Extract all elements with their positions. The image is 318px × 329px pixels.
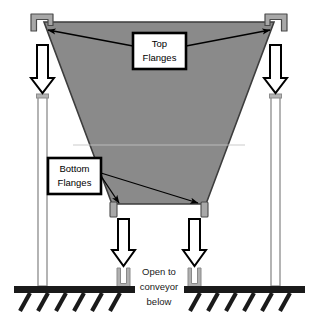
annotation-open-line2: conveyor (140, 281, 179, 292)
bottom-flange-left-tab (110, 202, 117, 217)
callout-top-flanges-line1: Top (152, 38, 167, 49)
annotation-open-line3: below (147, 296, 172, 307)
annotation-open-to-conveyor: Open to conveyor below (140, 266, 179, 307)
callout-bottom-flanges-line2: Flanges (58, 177, 92, 188)
support-leg-left-shaft (38, 96, 47, 286)
load-arrow-outer-left-shape (31, 45, 54, 93)
load-arrow-outer-right-shape (264, 45, 287, 93)
hopper-flange-diagram: Top Flanges Bottom Flanges Open to conve… (0, 0, 318, 329)
u-channel-left-shape (117, 268, 130, 288)
ground-hatch-right (184, 286, 305, 311)
callout-top-flanges-line2: Flanges (143, 52, 177, 63)
callout-bottom-flanges[interactable]: Bottom Flanges (48, 158, 101, 194)
u-channel-right (188, 268, 201, 288)
load-arrow-inner-left (112, 219, 135, 266)
load-arrow-outer-left (31, 45, 54, 93)
ground-line-left (14, 286, 135, 293)
load-arrow-inner-right (183, 219, 206, 266)
bottom-flange-right-shape (201, 202, 208, 217)
load-arrow-inner-left-shape (112, 219, 135, 266)
ground-line-right (184, 286, 305, 293)
ground-hatch-marks-left (20, 293, 120, 311)
callout-bottom-flanges-line1: Bottom (59, 163, 89, 174)
support-leg-right-shaft (271, 96, 280, 286)
diagram-canvas: Top Flanges Bottom Flanges Open to conve… (0, 0, 318, 329)
annotation-open-line1: Open to (142, 266, 176, 277)
bottom-flange-left-shape (110, 202, 117, 217)
load-arrow-outer-right (264, 45, 287, 93)
u-channel-left (117, 268, 130, 288)
load-arrow-inner-right-shape (183, 219, 206, 266)
support-leg-right (270, 94, 282, 286)
ground-hatch-marks-right (190, 293, 290, 311)
ground-hatch-left (14, 286, 135, 311)
u-channel-right-shape (188, 268, 201, 288)
callout-top-flanges[interactable]: Top Flanges (133, 33, 186, 69)
bottom-flange-right-tab (201, 202, 208, 217)
